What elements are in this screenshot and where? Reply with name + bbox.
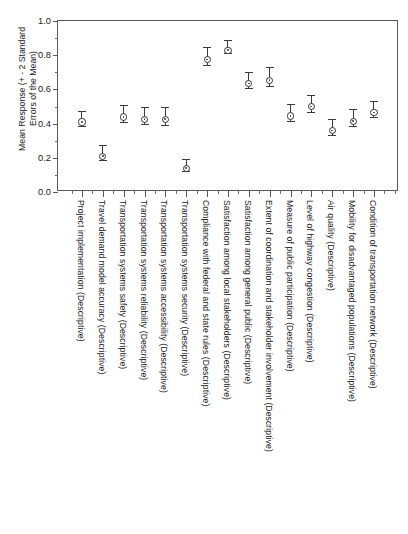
x-axis-minor-tick [113, 190, 114, 194]
data-point-marker [183, 165, 190, 172]
tick-mark [53, 55, 58, 56]
data-point-marker [224, 47, 231, 54]
x-axis-minor-tick [343, 190, 344, 194]
y-axis-tick-label: 0.4 [38, 119, 51, 129]
error-bar-cap-upper [120, 105, 128, 106]
error-bar-cap-upper [349, 109, 357, 110]
tick-mark [55, 107, 58, 108]
error-bar-cap-upper [370, 101, 378, 102]
x-axis-minor-tick [197, 190, 198, 194]
x-axis-minor-tick [155, 190, 156, 194]
error-bar-cap-upper [287, 104, 295, 105]
y-axis-tick-label: 0.8 [38, 50, 51, 60]
data-point-marker [287, 112, 294, 119]
x-axis-minor-tick [301, 190, 302, 194]
error-bar-cap-upper [328, 119, 336, 120]
x-axis-category-label: Transportation systems accessibility (De… [159, 200, 169, 393]
x-axis-minor-tick [218, 190, 219, 194]
data-point-marker [329, 127, 336, 134]
x-axis-major-tick [291, 190, 292, 197]
x-axis-major-tick [374, 190, 375, 197]
error-bar-cap-lower [245, 88, 253, 89]
error-bar-cap-lower [328, 135, 336, 136]
tick-mark [53, 192, 58, 193]
tick-mark [53, 124, 58, 125]
x-axis-category-label: Condition of transportation network (Des… [368, 200, 378, 389]
error-bar-cap-upper [141, 107, 149, 108]
error-bar-cap-lower [266, 86, 274, 87]
x-axis-category-label: Project implementation (Descriptive) [76, 200, 86, 342]
data-point-marker [245, 80, 252, 87]
x-axis-minor-tick [92, 190, 93, 194]
tick-mark [55, 72, 58, 73]
x-axis-minor-tick [72, 190, 73, 194]
error-bar-cap-upper [161, 107, 169, 108]
data-point-marker [350, 118, 357, 125]
error-bar-cap-upper [182, 159, 190, 160]
x-axis-category-label: Travel demand model accuracy (Descriptiv… [97, 200, 107, 374]
error-bar-cap-upper [245, 72, 253, 73]
data-point-marker [78, 118, 85, 125]
x-axis-major-tick [332, 190, 333, 197]
x-axis-category-label: Transportation systems reliability (Desc… [139, 200, 149, 380]
error-bar-cap-upper [203, 47, 211, 48]
error-bar-cap-lower [141, 124, 149, 125]
error-bar-cap-lower [78, 126, 86, 127]
data-point-marker [266, 77, 273, 84]
x-axis-major-tick [145, 190, 146, 197]
plot-frame: Mean Response (+ - 2 Standard Errors of … [57, 20, 398, 191]
tick-mark [55, 175, 58, 176]
x-axis-minor-tick [259, 190, 260, 194]
tick-mark [53, 21, 58, 22]
x-axis-category-label: Transportation systems security (Descrip… [180, 200, 190, 376]
tick-mark [53, 89, 58, 90]
x-axis-category-label: Air quality (Descriptive) [326, 200, 336, 291]
data-point-marker [162, 116, 169, 123]
data-point-marker [120, 113, 127, 120]
plot-area: 0.00.20.40.60.81.0 [58, 21, 397, 190]
error-bar-cap-lower [370, 117, 378, 118]
error-bar-cap-lower [161, 125, 169, 126]
error-bar-cap-upper [78, 111, 86, 112]
error-bar-cap-lower [349, 126, 357, 127]
x-axis-minor-tick [280, 190, 281, 194]
x-axis-major-tick [207, 190, 208, 197]
x-axis-category-label: Satisfaction among general public (Descr… [243, 200, 253, 384]
x-axis-major-tick [186, 190, 187, 197]
error-bar-cap-lower [120, 122, 128, 123]
data-point-marker [308, 103, 315, 110]
y-axis-tick-label: 0.6 [38, 84, 51, 94]
tick-mark [53, 158, 58, 159]
data-point-marker [204, 56, 211, 63]
x-axis-category-label: Transportation systems safety (Descripti… [118, 200, 128, 369]
tick-mark [55, 38, 58, 39]
x-axis-major-tick [311, 190, 312, 197]
x-axis-minor-tick [384, 190, 385, 194]
error-bar-cap-lower [99, 160, 107, 161]
x-axis-major-tick [82, 190, 83, 197]
error-bar-cap-upper [224, 40, 232, 41]
y-axis-tick-label: 0.0 [38, 187, 51, 197]
x-axis-minor-tick [364, 190, 365, 194]
x-axis-major-tick [228, 190, 229, 197]
x-axis-major-tick [249, 190, 250, 197]
x-axis-category-label: Satisfaction among local stakeholders (D… [222, 200, 232, 400]
figure-canvas: Mean Response (+ - 2 Standard Errors of … [0, 0, 408, 534]
y-axis-tick-label: 1.0 [38, 16, 51, 26]
x-axis-category-labels: Project implementation (Descriptive)Trav… [57, 200, 398, 530]
tick-mark [55, 141, 58, 142]
x-axis-minor-tick [134, 190, 135, 194]
x-axis-category-label: Extent of coordination and stakeholder i… [264, 200, 274, 452]
error-bar-cap-upper [99, 145, 107, 146]
x-axis-major-tick [165, 190, 166, 197]
data-point-marker [141, 116, 148, 123]
error-bar-cap-upper [266, 67, 274, 68]
data-point-marker [99, 153, 106, 160]
error-bar-cap-lower [307, 112, 315, 113]
x-axis-minor-tick [238, 190, 239, 194]
x-axis-major-tick [353, 190, 354, 197]
x-axis-minor-tick [322, 190, 323, 194]
y-axis-tick-label: 0.2 [38, 153, 51, 163]
x-axis-minor-tick [395, 190, 396, 194]
data-point-marker [370, 109, 377, 116]
